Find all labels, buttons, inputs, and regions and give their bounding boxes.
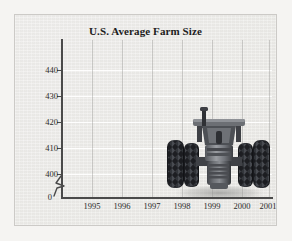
x-axis-labels: 1995 1996 1997 1998 1999 2000 2001 — [0, 0, 292, 241]
figure-page: U.S. Average Farm Size — [0, 0, 292, 241]
x-tick-label-2001: 2001 — [248, 201, 288, 211]
